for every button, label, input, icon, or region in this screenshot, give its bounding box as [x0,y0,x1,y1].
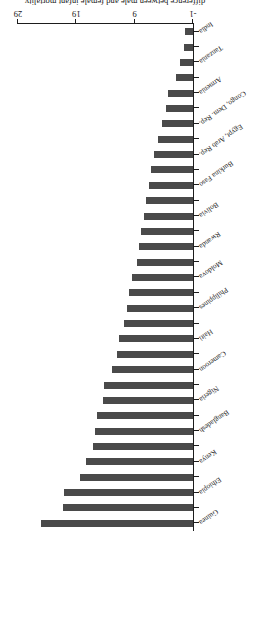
rotated-figure-container: GuineaEthiopiaKenyaBangladeshNigeriaCame… [0,0,276,627]
category-tick [194,430,199,431]
bar [146,197,193,204]
bar [104,382,193,389]
value-tick [75,19,76,24]
category-label-text: Cameroon [198,349,227,373]
category-label-text: Guinea [198,508,220,526]
value-axis-line [18,23,194,24]
category-tick [194,77,199,78]
category-label-text: India [198,20,215,35]
value-tick-label: 29 [3,9,33,18]
category-tick [194,353,199,354]
bar [97,412,193,419]
bar [103,397,193,404]
category-label-text: Ethiopia [198,475,223,495]
category-tick [194,92,199,93]
category-tick [194,169,199,170]
bar [41,520,193,527]
value-tick [192,19,193,24]
category-tick [194,46,199,47]
category-tick [194,138,199,139]
category-tick [194,108,199,109]
bar [80,474,193,481]
value-tick [17,19,18,24]
category-tick [194,446,199,447]
category-tick [194,61,199,62]
value-tick-label: 19 [61,9,91,18]
bar [166,105,193,112]
category-label-text: Kenya [198,448,218,465]
bar [162,120,193,127]
bar [137,259,193,266]
category-tick [194,184,199,185]
bar [169,90,194,97]
bar [158,136,193,143]
category-label-text: Moldova [198,259,224,280]
bar [93,443,193,450]
category-tick [194,307,199,308]
bar [113,366,194,373]
category-label-text: Tanzania [198,44,224,65]
category-label-text: Armenia [198,76,223,97]
category-tick [194,261,199,262]
bar [151,166,193,173]
category-tick [194,384,199,385]
bar [144,213,193,220]
bar [86,458,193,465]
bar [180,59,193,66]
bar [155,151,194,158]
bar [132,274,193,281]
bar [141,228,193,235]
bar [149,182,193,189]
value-tick-label: -1 [178,9,208,18]
bar [95,428,193,435]
bar [184,44,193,51]
bar [64,489,193,496]
category-tick [194,399,199,400]
category-label-text: Egypt, Arab Rep. [198,122,244,158]
category-label-text: Rwanda [198,230,222,250]
category-tick [194,522,199,523]
bar [129,289,193,296]
value-tick-label: 9 [120,9,150,18]
x-axis-title: difference between male and female infan… [10,0,220,7]
category-label-text: Bangladesh [198,409,230,435]
category-tick [194,277,199,278]
category-tick [194,200,199,201]
category-tick [194,292,199,293]
bar [176,74,193,81]
category-axis-line [193,24,194,531]
value-tick [134,19,135,24]
category-tick [194,415,199,416]
category-label-text: Nigeria [198,385,220,404]
chart-figure: GuineaEthiopiaKenyaBangladeshNigeriaCame… [0,0,276,627]
bar [127,305,193,312]
category-label-text: Haiti [198,328,214,343]
bar [119,335,193,342]
category-tick [194,507,199,508]
category-tick [194,230,199,231]
category-label-text: Bolivia [198,201,220,220]
category-tick [194,476,199,477]
category-label-text: Burkina Faso [198,160,235,189]
category-tick [194,323,199,324]
bar [64,504,194,511]
bar [124,320,193,327]
bar [139,243,193,250]
category-label-text: Philippines [198,286,229,311]
bar [117,351,193,358]
plot-area: GuineaEthiopiaKenyaBangladeshNigeriaCame… [0,0,276,627]
bar [185,28,193,35]
